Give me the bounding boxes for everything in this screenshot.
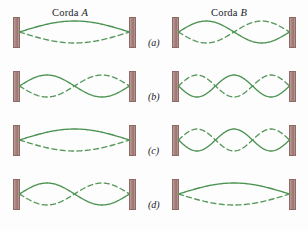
wave-curve-solid <box>179 183 290 194</box>
wave-row: (c) <box>0 120 308 178</box>
column-title-corda-b: Corda B <box>211 7 247 18</box>
standing-wave-corda-b <box>0 120 308 178</box>
wave-row: (a)Corda ACorda B <box>0 12 308 70</box>
wave-row: (d) <box>0 174 308 231</box>
standing-wave-figure: (a)Corda ACorda B(b)(c)(d) <box>0 0 308 231</box>
wave-curve-solid <box>179 75 290 97</box>
column-title-prefix: Corda <box>211 7 241 18</box>
wave-curve-dashed <box>179 21 290 43</box>
standing-wave-corda-b <box>0 12 308 70</box>
standing-wave-corda-b <box>0 174 308 231</box>
wave-curve-dashed <box>179 75 290 97</box>
standing-wave-corda-b <box>0 66 308 124</box>
column-title-letter: B <box>241 7 248 18</box>
wave-curve-dashed <box>179 194 290 205</box>
wave-curve-dashed <box>179 129 290 151</box>
wave-curve-solid <box>179 129 290 151</box>
wave-row: (b) <box>0 66 308 124</box>
